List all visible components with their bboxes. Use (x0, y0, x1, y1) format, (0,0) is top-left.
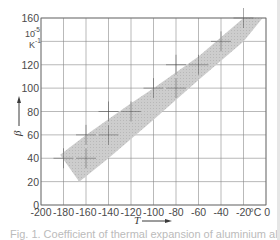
chart: -200-180-160-140-120-100-80-60-40-20°C 0… (0, 0, 280, 240)
x-axis-symbol: T (134, 214, 141, 226)
x-tick-labels: -200-180-160-140-120-100-80-60-40-20°C 0 (30, 206, 270, 218)
y-tick-label: 40 (27, 152, 39, 164)
x-tick-label: °C 0 (249, 206, 270, 218)
figure-caption: Fig. 1. Coefficient of thermal expansion… (10, 228, 280, 240)
data-band (60, 18, 263, 182)
y-tick-label: 60 (27, 129, 39, 141)
y-tick-label: 100 (21, 82, 39, 94)
x-tick-label: -40 (213, 206, 228, 218)
x-tick-label: -80 (168, 206, 183, 218)
arrow-right-icon (165, 219, 172, 223)
x-tick-label: -60 (191, 206, 206, 218)
y-tick-label: 120 (21, 59, 39, 71)
y-tick-label: 160 (21, 12, 39, 24)
x-tick-label: -140 (98, 206, 119, 218)
x-tick-label: -180 (53, 206, 74, 218)
arrow-up-icon (17, 96, 21, 103)
x-tick-label: -100 (143, 206, 164, 218)
y-tick-label: 80 (27, 106, 39, 118)
y-unit-k-exp: -1 (35, 37, 41, 44)
x-tick-label: -160 (75, 206, 96, 218)
y-axis-label: β (11, 96, 23, 137)
y-tick-label: 20 (27, 176, 39, 188)
y-axis-symbol: β (11, 130, 23, 137)
y-tick-label: 0 (33, 199, 39, 211)
y-unit: 10 -5 K -1 (25, 26, 41, 50)
y-unit-exp: -5 (34, 26, 40, 33)
page-edge (277, 0, 280, 240)
